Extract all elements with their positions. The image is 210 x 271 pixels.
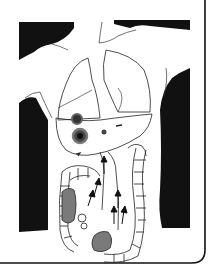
right-lung [103,50,150,112]
lesion-1 [72,114,82,124]
illustration-frame [0,0,210,271]
right-arm-region [159,68,190,228]
liver [56,114,152,155]
left-shoulder-region [19,22,74,60]
right-shoulder-region [114,20,190,30]
lesion-3 [102,130,107,135]
flow-arrows [88,156,127,224]
shaded-mass-left [62,188,76,223]
left-lung [58,58,100,120]
shaded-mass-bottom [92,232,112,252]
left-arm-region [19,97,48,232]
anatomy-illustration [0,0,210,271]
